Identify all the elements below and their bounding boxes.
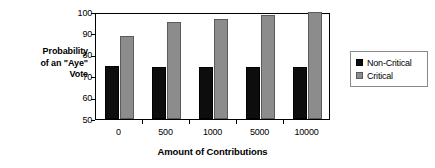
- y-tick-label: 100: [32, 9, 92, 18]
- x-tick-label: 5000: [250, 127, 269, 137]
- x-tick-mark: [236, 120, 237, 124]
- legend-label-non-critical: Non-Critical: [367, 58, 412, 68]
- y-tick-mark: [91, 120, 95, 121]
- legend-item-non-critical: Non-Critical: [356, 56, 423, 69]
- bar-non-critical-500: [152, 67, 166, 119]
- bar-non-critical-10000: [293, 67, 307, 119]
- x-axis-title: Amount of Contributions: [95, 146, 330, 157]
- x-tick-label: 10000: [294, 127, 318, 137]
- x-tick-label: 0: [116, 127, 121, 137]
- x-tick-label: 500: [158, 127, 172, 137]
- bar-critical-500: [167, 22, 181, 119]
- y-tick-label: 70: [32, 73, 92, 82]
- x-tick-mark: [142, 120, 143, 124]
- bar-critical-1000: [214, 19, 228, 119]
- x-tick-mark: [283, 120, 284, 124]
- y-tick-label: 50: [32, 116, 92, 125]
- bar-critical-5000: [261, 15, 275, 119]
- bar-chart: Probability of an "Aye" Vote 10090807060…: [0, 0, 435, 168]
- bars-layer: [96, 14, 329, 119]
- legend-swatch-icon-non-critical: [356, 59, 363, 66]
- x-tick-label: 1000: [203, 127, 222, 137]
- legend-item-critical: Critical: [356, 69, 423, 82]
- legend-swatch-icon-critical: [356, 72, 363, 79]
- bar-non-critical-5000: [246, 67, 260, 119]
- y-tick-label: 60: [32, 94, 92, 103]
- bar-non-critical-1000: [199, 67, 213, 119]
- plot-area: [95, 13, 330, 120]
- bar-non-critical-0: [105, 66, 119, 120]
- legend: Non-Critical Critical: [350, 51, 428, 87]
- x-tick-mark: [189, 120, 190, 124]
- y-tick-label: 80: [32, 51, 92, 60]
- y-tick-label: 90: [32, 30, 92, 39]
- bar-critical-10000: [308, 12, 322, 119]
- bar-critical-0: [120, 36, 134, 119]
- legend-label-critical: Critical: [367, 71, 393, 81]
